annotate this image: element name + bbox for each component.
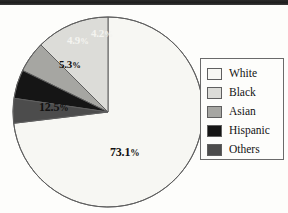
legend-item-white: White	[207, 64, 283, 83]
slice-label-black: 12.5%	[39, 100, 68, 115]
legend-swatch-white	[207, 68, 222, 80]
legend-label-white: White	[229, 68, 257, 80]
legend-swatch-black	[207, 87, 222, 99]
pie-chart-figure: 73.1% 12.5% 5.3% 4.9% 4.2% White Black A…	[0, 0, 288, 213]
legend-item-hispanic: Hispanic	[207, 121, 283, 140]
legend-label-asian: Asian	[229, 106, 256, 118]
slice-label-white: 73.1%	[110, 145, 139, 160]
legend-label-others: Others	[229, 144, 260, 156]
pie-chart-plot-area: 73.1% 12.5% 5.3% 4.9% 4.2%	[10, 14, 206, 210]
scan-artifact-band	[0, 0, 288, 5]
legend-swatch-hispanic	[207, 125, 222, 137]
legend-item-black: Black	[207, 83, 283, 102]
slice-label-others: 4.2%	[91, 27, 113, 39]
legend-swatch-others	[207, 144, 222, 156]
legend-swatch-asian	[207, 106, 222, 118]
legend-label-black: Black	[229, 87, 256, 99]
legend-label-hispanic: Hispanic	[229, 125, 270, 137]
slice-label-asian: 5.3%	[59, 58, 81, 70]
legend-item-others: Others	[207, 140, 283, 159]
slice-label-hispanic: 4.9%	[67, 34, 89, 46]
legend-item-asian: Asian	[207, 102, 283, 121]
chart-legend: White Black Asian Hispanic Others	[200, 58, 284, 160]
